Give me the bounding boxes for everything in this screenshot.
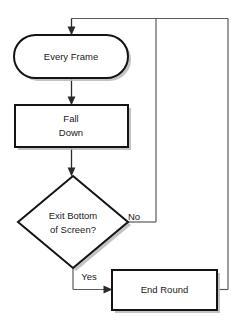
decision-fill [18, 176, 128, 268]
node-end-round[interactable]: End Round [112, 270, 220, 313]
node-every-frame[interactable]: Every Frame [14, 35, 131, 81]
decision-label-line2: of Screen? [50, 224, 96, 235]
decision-label-line1: Exit Bottom [49, 210, 98, 221]
edge-label-no: No [128, 211, 140, 222]
fall-down-label-line2: Down [59, 127, 83, 138]
fall-down-fill [15, 105, 128, 147]
flowchart-canvas: Every Frame Fall Down Exit Bottom of Scr… [0, 0, 241, 329]
every-frame-label: Every Frame [44, 51, 98, 62]
arrowhead-into-decision [68, 168, 76, 177]
node-exit-bottom-of-screen[interactable]: Exit Bottom of Screen? [18, 176, 131, 271]
flowchart-svg: Every Frame Fall Down Exit Bottom of Scr… [0, 0, 241, 329]
end-round-label: End Round [141, 284, 189, 295]
edge-every-frame-to-fall-down [68, 78, 76, 106]
node-fall-down[interactable]: Fall Down [15, 105, 131, 150]
edge-label-yes: Yes [81, 271, 97, 282]
edge-end-round-loop [156, 19, 228, 290]
edge-fall-down-to-decision [68, 147, 76, 177]
fall-down-label-line1: Fall [63, 113, 78, 124]
